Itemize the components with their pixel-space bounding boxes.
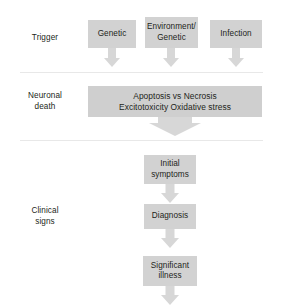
- arrow-down-genetic: [104, 48, 120, 67]
- stage-label-trigger: Trigger: [10, 33, 80, 44]
- arrow-down-initial-symptoms: [152, 184, 188, 204]
- arrow-stem: [166, 286, 175, 295]
- arrow-stem: [232, 48, 240, 58]
- node-mechanisms: Apoptosis vs Necrosis Excitotoxicity Oxi…: [88, 86, 262, 117]
- stage-label-clinical-signs: Clinical signs: [10, 206, 80, 227]
- arrow-down-infection: [228, 48, 244, 67]
- arrow-head: [161, 193, 179, 203]
- arrow-head: [149, 123, 201, 136]
- arrow-stem: [167, 48, 175, 58]
- arrow-stem: [166, 229, 175, 238]
- node-genetic: Genetic: [88, 20, 136, 48]
- arrow-stem: [108, 48, 116, 58]
- arrow-head: [163, 58, 179, 67]
- node-infection: Infection: [210, 20, 262, 48]
- arrow-down-environment-genetic: [163, 48, 179, 67]
- node-diagnosis: Diagnosis: [144, 204, 196, 229]
- node-significant-illness: Significant illness: [143, 256, 197, 286]
- node-initial-symptoms: Initial symptoms: [144, 155, 196, 184]
- arrow-head: [161, 238, 179, 248]
- arrow-down-mechanisms: [149, 117, 201, 136]
- arrow-head: [161, 295, 179, 305]
- arrow-down-significant-illness: [152, 286, 188, 306]
- stage-label-neuronal-death: Neuronal death: [10, 91, 80, 112]
- node-environment-genetic: Environment/ Genetic: [145, 17, 198, 48]
- section-divider-2: [20, 140, 263, 141]
- arrow-stem: [166, 184, 175, 193]
- arrow-down-diagnosis: [152, 229, 188, 249]
- section-divider-1: [20, 72, 263, 73]
- arrow-head: [104, 58, 120, 67]
- arrow-head: [228, 58, 244, 67]
